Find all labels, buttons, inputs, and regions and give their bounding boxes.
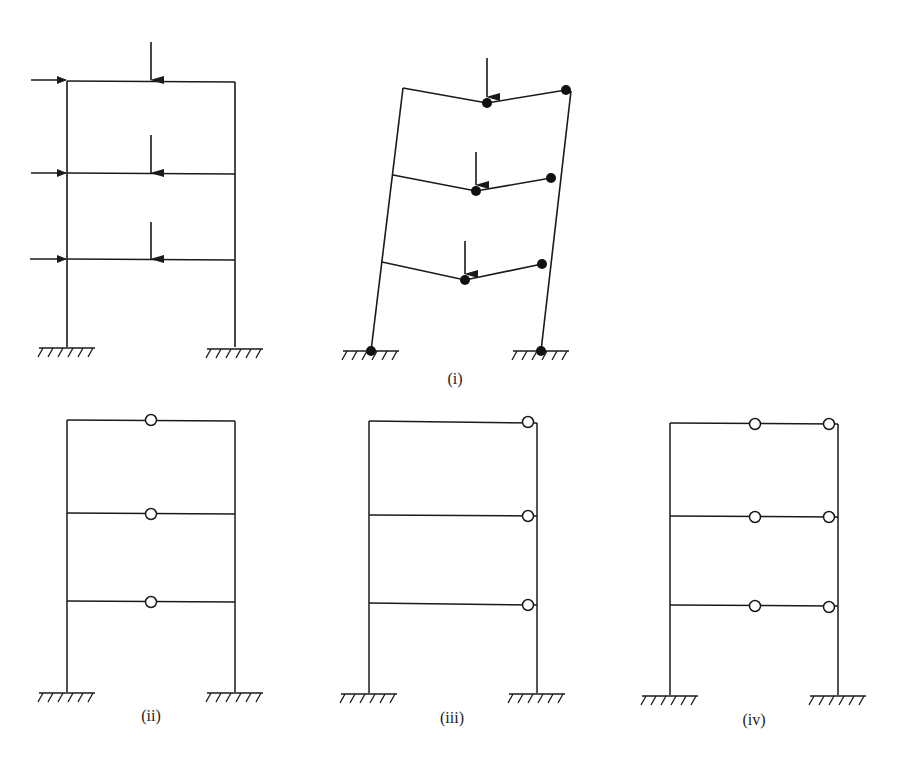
plastic-hinge-icon bbox=[471, 186, 481, 196]
fixed-support-icon bbox=[206, 349, 263, 358]
panel-label-iii: (iii) bbox=[440, 709, 464, 727]
plastic-hinge-icon bbox=[546, 173, 556, 183]
fixed-support-icon bbox=[38, 693, 95, 702]
fixed-support-icon bbox=[508, 694, 565, 703]
plastic-hinge-icon bbox=[482, 98, 492, 108]
hinge-icon bbox=[146, 597, 157, 608]
beam-floor-2 bbox=[369, 515, 537, 516]
fixed-support-icon bbox=[641, 696, 698, 705]
plastic-hinge-icon bbox=[561, 85, 571, 95]
fixed-support-icon bbox=[206, 693, 263, 702]
panel-label-i: (i) bbox=[447, 370, 462, 388]
beam-floor-2 bbox=[67, 173, 235, 174]
plastic-hinge-icon bbox=[460, 275, 470, 285]
hinge-icon bbox=[523, 417, 534, 428]
panel-label-ii: (ii) bbox=[141, 707, 161, 725]
hinge-icon bbox=[824, 419, 835, 430]
mechanism-ii bbox=[38, 415, 263, 703]
right-column bbox=[541, 91, 571, 351]
fixed-support-icon bbox=[38, 348, 95, 357]
hinge-icon bbox=[523, 511, 534, 522]
hinge-icon bbox=[750, 419, 761, 430]
left-column bbox=[371, 88, 403, 351]
plastic-hinges bbox=[366, 85, 571, 356]
hinge-icon bbox=[523, 600, 534, 611]
fixed-support-icon bbox=[809, 696, 866, 705]
loaded-frame bbox=[30, 42, 263, 358]
hinge-icon bbox=[146, 415, 157, 426]
mechanism-i bbox=[342, 58, 571, 360]
fixed-support-icon bbox=[340, 694, 397, 703]
hinge-icon bbox=[750, 512, 761, 523]
hinge-icon bbox=[146, 509, 157, 520]
beam-floor-1 bbox=[369, 603, 537, 605]
hinge-icon bbox=[824, 602, 835, 613]
plastic-hinge-icon bbox=[536, 346, 546, 356]
hinge-icon bbox=[750, 601, 761, 612]
panel-label-iv: (iv) bbox=[742, 711, 765, 729]
hinge-icon bbox=[824, 512, 835, 523]
plastic-hinge-icon bbox=[537, 259, 547, 269]
mechanism-iii bbox=[340, 417, 565, 704]
beam-roof bbox=[67, 81, 235, 82]
plastic-hinge-icon bbox=[366, 346, 376, 356]
beam-roof bbox=[369, 421, 537, 423]
beam-floor-1 bbox=[67, 259, 235, 260]
mechanism-iv bbox=[641, 419, 866, 706]
